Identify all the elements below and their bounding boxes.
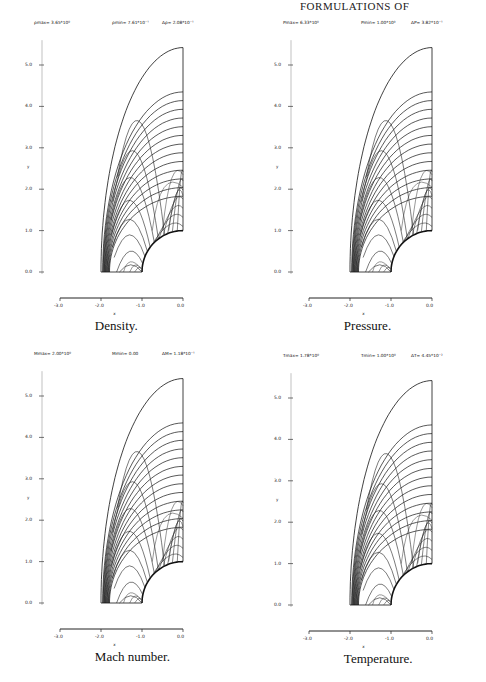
body-surface [391, 564, 432, 605]
expansion-contour [168, 519, 183, 565]
x-tick-label: -1.0 [385, 303, 394, 308]
shock-contour [110, 527, 184, 603]
y-tick-label: 1.0 [274, 561, 281, 566]
expansion-contour [159, 205, 183, 238]
expansion-contour [417, 521, 432, 567]
shock-contour [359, 196, 433, 272]
panel-mach: Mmax= 2.00*10⁰Mmin= 0.00ΔM= 1.18*10⁻¹0.0… [0, 345, 243, 675]
flow-contour [366, 453, 413, 567]
shock-contour [104, 440, 183, 603]
shock-contour [359, 529, 433, 605]
y-axis-label: y [276, 497, 278, 502]
y-tick-label: 0.0 [274, 602, 281, 607]
y-tick-label: 5.0 [25, 62, 32, 67]
figure-caption: Mach number. [95, 649, 170, 665]
x-tick-label: -3.0 [303, 303, 312, 308]
y-tick-label: 1.0 [274, 228, 281, 233]
contour-plot [0, 345, 243, 675]
x-axis-label: x [113, 311, 115, 316]
flow-contour [112, 550, 147, 582]
x-tick-label: -2.0 [344, 303, 353, 308]
expansion-contour [408, 538, 432, 571]
x-axis-label: x [362, 644, 364, 649]
body-surface [142, 231, 183, 272]
y-tick-label: 2.0 [274, 186, 281, 191]
panel-density: ρmax= 3.65*10⁰ρmin= 7.61*10⁻¹Δρ= 2.08*10… [0, 14, 243, 344]
flow-contour [112, 219, 147, 251]
body-surface [391, 231, 432, 272]
y-tick-label: 2.0 [25, 517, 32, 522]
figure-caption: Temperature. [344, 651, 413, 667]
shock-contour [104, 109, 183, 272]
flow-contour [363, 235, 394, 258]
shock-contour [353, 109, 432, 272]
y-axis-label: y [27, 164, 29, 169]
shock-contour [106, 466, 184, 603]
flow-contour [361, 219, 396, 251]
flow-contour [361, 552, 396, 584]
expansion-contour [159, 536, 183, 569]
x-tick-label: -1.0 [385, 636, 394, 641]
y-axis-label: y [276, 164, 278, 169]
x-axis-label: x [362, 311, 364, 316]
y-tick-label: 4.0 [274, 436, 281, 441]
flow-contour [117, 120, 164, 234]
contour-plot [0, 14, 243, 344]
shock-contour [355, 468, 433, 605]
y-tick-label: 3.0 [25, 476, 32, 481]
expansion-contour [168, 188, 183, 234]
y-tick-label: 3.0 [274, 478, 281, 483]
x-tick-label: -1.0 [136, 634, 145, 639]
y-tick-label: 3.0 [25, 145, 32, 150]
flow-contour [363, 568, 394, 591]
shock-contour [353, 442, 432, 605]
shock-contour [355, 135, 433, 272]
expansion-contour [408, 205, 432, 238]
shock-contour [110, 196, 184, 272]
y-tick-label: 0.0 [25, 269, 32, 274]
panel-temperature: Tmax= 1.78*10⁰Tmin= 1.00*10⁰ΔT= 4.45*10⁻… [243, 345, 486, 675]
x-tick-label: 0.0 [177, 634, 184, 639]
x-tick-label: -2.0 [95, 303, 104, 308]
expansion-contour [417, 188, 432, 234]
y-tick-label: 1.0 [25, 559, 32, 564]
flow-contour [114, 235, 145, 258]
x-tick-label: -1.0 [136, 303, 145, 308]
y-tick-label: 2.0 [274, 519, 281, 524]
y-tick-label: 4.0 [25, 434, 32, 439]
x-tick-label: -2.0 [95, 634, 104, 639]
shock-contour [106, 135, 184, 272]
y-tick-label: 2.0 [25, 186, 32, 191]
y-tick-label: 1.0 [25, 228, 32, 233]
flow-contour [114, 566, 145, 589]
x-tick-label: -3.0 [303, 636, 312, 641]
panel-pressure: Pmax= 6.33*10⁰Pmin= 1.00*10⁰ΔP= 3.82*10⁻… [243, 14, 486, 344]
y-tick-label: 0.0 [25, 600, 32, 605]
x-axis-label: x [113, 642, 115, 647]
y-tick-label: 4.0 [274, 103, 281, 108]
x-tick-label: -2.0 [344, 636, 353, 641]
y-tick-label: 4.0 [25, 103, 32, 108]
x-tick-label: 0.0 [426, 636, 433, 641]
x-tick-label: 0.0 [426, 303, 433, 308]
y-axis-label: y [27, 495, 29, 500]
body-surface [142, 562, 183, 603]
x-tick-label: -3.0 [54, 634, 63, 639]
y-tick-label: 3.0 [274, 145, 281, 150]
running-head: FORMULATIONS OF [300, 0, 486, 14]
y-tick-label: 0.0 [274, 269, 281, 274]
x-tick-label: 0.0 [177, 303, 184, 308]
x-tick-label: -3.0 [54, 303, 63, 308]
figure-caption: Pressure. [344, 318, 391, 334]
flow-contour [117, 451, 164, 565]
y-tick-label: 5.0 [274, 62, 281, 67]
flow-contour [366, 120, 413, 234]
y-tick-label: 5.0 [25, 393, 32, 398]
figure-caption: Density. [95, 318, 138, 334]
y-tick-label: 5.0 [274, 395, 281, 400]
